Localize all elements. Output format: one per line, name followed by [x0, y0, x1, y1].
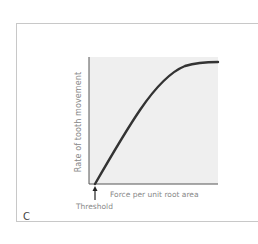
plot-area: [89, 57, 218, 184]
panel-label: C: [23, 211, 30, 222]
chart-plot: [0, 0, 258, 244]
y-axis-label: Rate of tooth movement: [74, 72, 83, 172]
threshold-label: Threshold: [76, 202, 113, 211]
x-axis-label: Force per unit root area: [110, 190, 199, 199]
arrowhead-icon: [93, 186, 98, 191]
